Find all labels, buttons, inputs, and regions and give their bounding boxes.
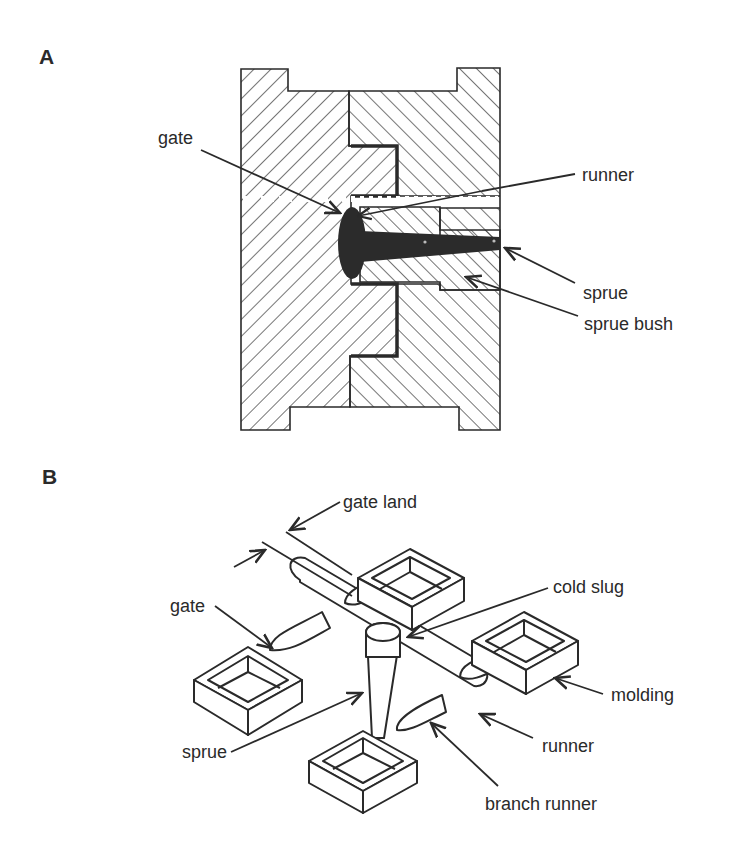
callout-a-sprue: sprue	[583, 284, 628, 302]
mold-cross-section	[241, 68, 500, 430]
callout-b-gate: gate	[170, 597, 205, 615]
panel-label-a: A	[39, 45, 54, 69]
branch-runner-left	[270, 612, 330, 650]
isometric-shot	[194, 549, 578, 813]
callout-a-gate: gate	[158, 129, 193, 147]
molding-right	[472, 612, 578, 694]
callout-b-branch-runner: branch runner	[485, 795, 597, 813]
callout-b-runner: runner	[542, 737, 594, 755]
callout-a-sprue-bush: sprue bush	[584, 315, 673, 333]
branch-runner-lower	[397, 695, 446, 730]
figure-canvas	[0, 0, 730, 849]
molding-bottom	[309, 731, 417, 813]
callout-a-runner: runner	[582, 166, 634, 184]
callout-b-cold-slug: cold slug	[553, 578, 624, 596]
callout-b-sprue: sprue	[182, 743, 227, 761]
callout-b-molding: molding	[611, 686, 674, 704]
callout-b-gate-land: gate land	[343, 493, 417, 511]
molding-left	[194, 647, 302, 735]
panel-label-b: B	[42, 465, 57, 489]
